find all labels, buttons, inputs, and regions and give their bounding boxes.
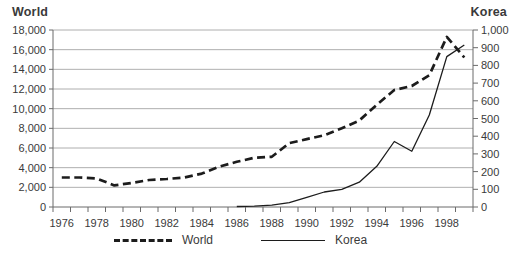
legend-label-korea: Korea xyxy=(335,233,367,247)
chart-canvas: 02,0004,0006,0008,00010,00012,00014,0001… xyxy=(0,0,511,232)
right-axis-tick-label: 900 xyxy=(481,42,499,54)
x-axis-tick-label: 1988 xyxy=(260,217,284,229)
x-axis-tick-label: 1978 xyxy=(85,217,109,229)
left-axis-tick-label: 14,000 xyxy=(12,63,46,75)
x-axis-tick-label: 1982 xyxy=(155,217,179,229)
right-axis-tick-label: 600 xyxy=(481,95,499,107)
right-axis-tick-label: 100 xyxy=(481,183,499,195)
right-axis-tick-label: 0 xyxy=(481,201,487,213)
left-axis-tick-label: 16,000 xyxy=(12,44,46,56)
series-line-world xyxy=(62,37,465,186)
right-axis-tick-label: 400 xyxy=(481,130,499,142)
left-axis-tick-label: 8,000 xyxy=(18,122,46,134)
x-axis-tick-label: 1996 xyxy=(400,217,424,229)
right-axis-tick-label: 500 xyxy=(481,113,499,125)
left-axis-tick-label: 2,000 xyxy=(18,181,46,193)
legend-item-world: World xyxy=(114,233,213,247)
legend-label-world: World xyxy=(182,233,213,247)
x-axis-tick-label: 1990 xyxy=(295,217,319,229)
left-axis-tick-label: 6,000 xyxy=(18,142,46,154)
left-axis-tick-label: 10,000 xyxy=(12,103,46,115)
right-axis-tick-label: 800 xyxy=(481,59,499,71)
left-axis-tick-label: 12,000 xyxy=(12,83,46,95)
right-axis-tick-label: 300 xyxy=(481,148,499,160)
right-axis-tick-label: 200 xyxy=(481,166,499,178)
left-axis-tick-label: 0 xyxy=(40,201,46,213)
x-axis-tick-label: 1980 xyxy=(120,217,144,229)
chart-legend: World Korea xyxy=(0,233,481,247)
right-axis-tick-label: 1,000 xyxy=(481,24,509,36)
right-axis-tick-label: 700 xyxy=(481,77,499,89)
korea-solid-line-sample xyxy=(261,240,325,241)
x-axis-tick-label: 1992 xyxy=(330,217,354,229)
x-axis-tick-label: 1994 xyxy=(365,217,389,229)
x-axis-tick-label: 1984 xyxy=(190,217,214,229)
legend-item-korea: Korea xyxy=(261,233,367,247)
x-axis-tick-label: 1986 xyxy=(225,217,249,229)
left-axis-tick-label: 18,000 xyxy=(12,24,46,36)
left-axis-tick-label: 4,000 xyxy=(18,162,46,174)
world-dashed-line-sample xyxy=(114,239,172,242)
x-axis-tick-label: 1976 xyxy=(50,217,74,229)
x-axis-tick-label: 1998 xyxy=(435,217,459,229)
